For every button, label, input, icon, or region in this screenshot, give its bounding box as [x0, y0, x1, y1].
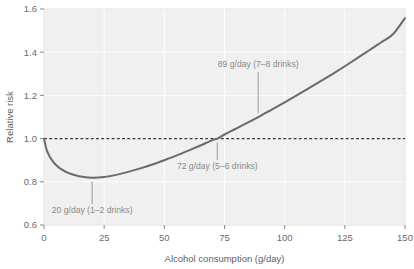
y-axis-ticks: 0.60.81.01.21.41.6: [24, 3, 44, 230]
y-tick-label: 1.4: [24, 47, 37, 58]
x-tick-label: 75: [219, 232, 230, 243]
y-tick-label: 1.6: [24, 3, 37, 14]
annotation-89-label: 89 g/day (7–8 drinks): [218, 59, 299, 69]
annotation-20-label: 20 g/day (1–2 drinks): [52, 205, 133, 215]
relative-risk-chart-figure: 0.60.81.01.21.41.6 0255075100125150 20 g…: [0, 0, 414, 269]
y-tick-label: 1.0: [24, 133, 37, 144]
y-tick-label: 0.8: [24, 176, 37, 187]
x-axis-title: Alcohol consumption (g/day): [165, 253, 285, 264]
x-tick-label: 150: [397, 232, 413, 243]
x-tick-label: 25: [99, 232, 110, 243]
x-tick-label: 50: [159, 232, 170, 243]
x-tick-label: 125: [337, 232, 353, 243]
annotation-72-label: 72 g/day (5–6 drinks): [177, 161, 258, 171]
chart-canvas: 0.60.81.01.21.41.6 0255075100125150 20 g…: [0, 0, 414, 269]
y-axis-title: Relative risk: [4, 91, 15, 143]
x-axis-ticks: 0255075100125150: [41, 225, 413, 243]
x-tick-label: 0: [41, 232, 46, 243]
y-tick-label: 0.6: [24, 219, 37, 230]
x-tick-label: 100: [277, 232, 293, 243]
y-tick-label: 1.2: [24, 90, 37, 101]
